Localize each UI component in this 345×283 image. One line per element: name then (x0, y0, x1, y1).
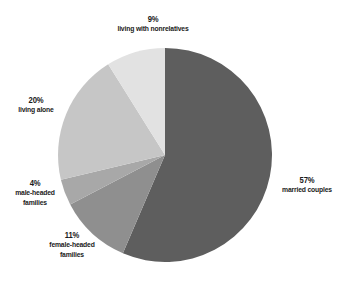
label-pct: 4% (10, 178, 59, 188)
label-text: living alone (12, 105, 60, 115)
label-pct: 11% (45, 230, 99, 240)
label-text: married couples (277, 185, 337, 195)
label-text: male-headed (10, 188, 59, 198)
label-text: living with nonrelatives (98, 24, 209, 34)
label-female-headed: 11% female-headed families (45, 230, 99, 260)
label-pct: 57% (277, 175, 337, 185)
label-male-headed: 4% male-headed families (10, 178, 59, 208)
label-text-2: families (10, 198, 59, 208)
label-living-alone: 20% living alone (12, 95, 60, 115)
label-nonrelatives: 9% living with nonrelatives (98, 14, 209, 34)
label-text: female-headed (45, 240, 99, 250)
label-pct: 9% (98, 14, 209, 24)
label-married-couples: 57% married couples (277, 175, 337, 195)
label-text-2: families (45, 250, 99, 260)
label-pct: 20% (12, 95, 60, 105)
